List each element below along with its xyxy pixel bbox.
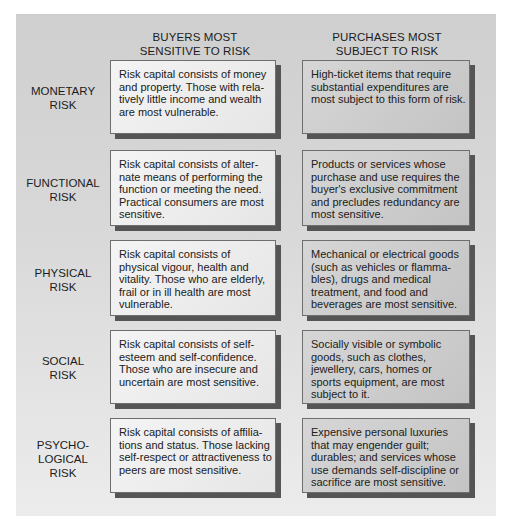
text-line: treatment, and food and <box>311 286 461 299</box>
text-line: Risk capital consists of <box>119 248 267 261</box>
buyers-box-social: Risk capital consists of self- esteem an… <box>110 330 276 404</box>
row-label-monetary: MONETARY RISK <box>16 84 110 112</box>
text-line: durables; and services whose <box>311 451 461 464</box>
text-line: tively little income and wealth <box>119 93 267 106</box>
text-line: and property. Those with rela- <box>119 81 267 94</box>
risk-types-diagram: BUYERS MOST SENSITIVE TO RISK PURCHASES … <box>16 14 496 516</box>
column-header-buyers: BUYERS MOST SENSITIVE TO RISK <box>110 30 280 58</box>
buyers-box-physical: Risk capital consists of physical vigour… <box>110 240 276 316</box>
row-label-social: SOCIAL RISK <box>16 354 110 382</box>
purchases-box-social: Socially visible or symbolic goods, such… <box>302 330 470 404</box>
text-line: are most vulnerable. <box>119 106 267 119</box>
text-line: function or meeting the need. <box>119 183 267 196</box>
text-line: Socially visible or symbolic <box>311 338 461 351</box>
label-line: RISK <box>16 98 110 112</box>
text-line: bles), drugs and medical <box>311 273 461 286</box>
text-line: goods, such as clothes, <box>311 351 461 364</box>
text-line: use demands self-discipline or <box>311 464 461 477</box>
row-label-physical: PHYSICAL RISK <box>16 266 110 294</box>
header-line: SUBJECT TO RISK <box>302 44 472 58</box>
text-line: esteem and self-confidence. <box>119 351 267 364</box>
label-line: SOCIAL <box>16 354 110 368</box>
label-line: MONETARY <box>16 84 110 98</box>
text-line: subject to it. <box>311 388 461 401</box>
text-line: sacrifice are most sensitive. <box>311 476 461 489</box>
text-line: Risk capital consists of affilia- <box>119 426 267 439</box>
text-line: Those who are insecure and <box>119 363 267 376</box>
label-line: RISK <box>16 368 110 382</box>
label-line: RISK <box>16 466 110 480</box>
purchases-box-physical: Mechanical or electrical goods (such as … <box>302 240 470 316</box>
text-line: sports equipment, are most <box>311 376 461 389</box>
label-line: RISK <box>16 280 110 294</box>
purchases-box-functional: Products or services whose purchase and … <box>302 150 470 226</box>
text-line: frail or in ill health are most <box>119 286 267 299</box>
text-line: vulnerable. <box>119 298 267 311</box>
text-line: that may engender guilt; <box>311 439 461 452</box>
label-line: PSYCHO- <box>16 438 110 452</box>
text-line: beverages are most sensitive. <box>311 298 461 311</box>
text-line: Practical consumers are most <box>119 196 267 209</box>
text-line: jewellery, cars, homes or <box>311 363 461 376</box>
text-line: substantial expenditures are <box>311 81 461 94</box>
text-line: and precludes redundancy are <box>311 196 461 209</box>
text-line: most sensitive. <box>311 208 461 221</box>
text-line: sensitive. <box>119 208 267 221</box>
label-line: FUNCTIONAL <box>16 176 110 190</box>
text-line: (such as vehicles or flamma- <box>311 261 461 274</box>
column-header-purchases: PURCHASES MOST SUBJECT TO RISK <box>302 30 472 58</box>
header-line: BUYERS MOST <box>110 30 280 44</box>
purchases-box-monetary: High-ticket items that require substanti… <box>302 60 470 134</box>
text-line: Risk capital consists of self- <box>119 338 267 351</box>
header-line: SENSITIVE TO RISK <box>110 44 280 58</box>
text-line: uncertain are most sensitive. <box>119 376 267 389</box>
label-line: PHYSICAL <box>16 266 110 280</box>
buyers-box-functional: Risk capital consists of alter- nate mea… <box>110 150 276 226</box>
text-line: Products or services whose <box>311 158 461 171</box>
text-line: self-respect or attractiveness to <box>119 451 267 464</box>
text-line: physical vigour, health and <box>119 261 267 274</box>
buyers-box-monetary: Risk capital consists of money and prope… <box>110 60 276 134</box>
header-line: PURCHASES MOST <box>302 30 472 44</box>
text-line: buyer's exclusive commitment <box>311 183 461 196</box>
label-line: RISK <box>16 190 110 204</box>
label-line: LOGICAL <box>16 452 110 466</box>
text-line: vitality. Those who are elderly, <box>119 273 267 286</box>
text-line: peers are most sensitive. <box>119 464 267 477</box>
text-line: purchase and use requires the <box>311 171 461 184</box>
row-label-functional: FUNCTIONAL RISK <box>16 176 110 204</box>
text-line: High-ticket items that require <box>311 68 461 81</box>
text-line: nate means of performing the <box>119 171 267 184</box>
row-label-psychological: PSYCHO- LOGICAL RISK <box>16 438 110 480</box>
purchases-box-psychological: Expensive personal luxuries that may eng… <box>302 418 470 493</box>
text-line: Expensive personal luxuries <box>311 426 461 439</box>
text-line: tions and status. Those lacking <box>119 439 267 452</box>
text-line: most subject to this form of risk. <box>311 93 461 106</box>
buyers-box-psychological: Risk capital consists of affilia- tions … <box>110 418 276 493</box>
text-line: Risk capital consists of alter- <box>119 158 267 171</box>
text-line: Mechanical or electrical goods <box>311 248 461 261</box>
text-line: Risk capital consists of money <box>119 68 267 81</box>
